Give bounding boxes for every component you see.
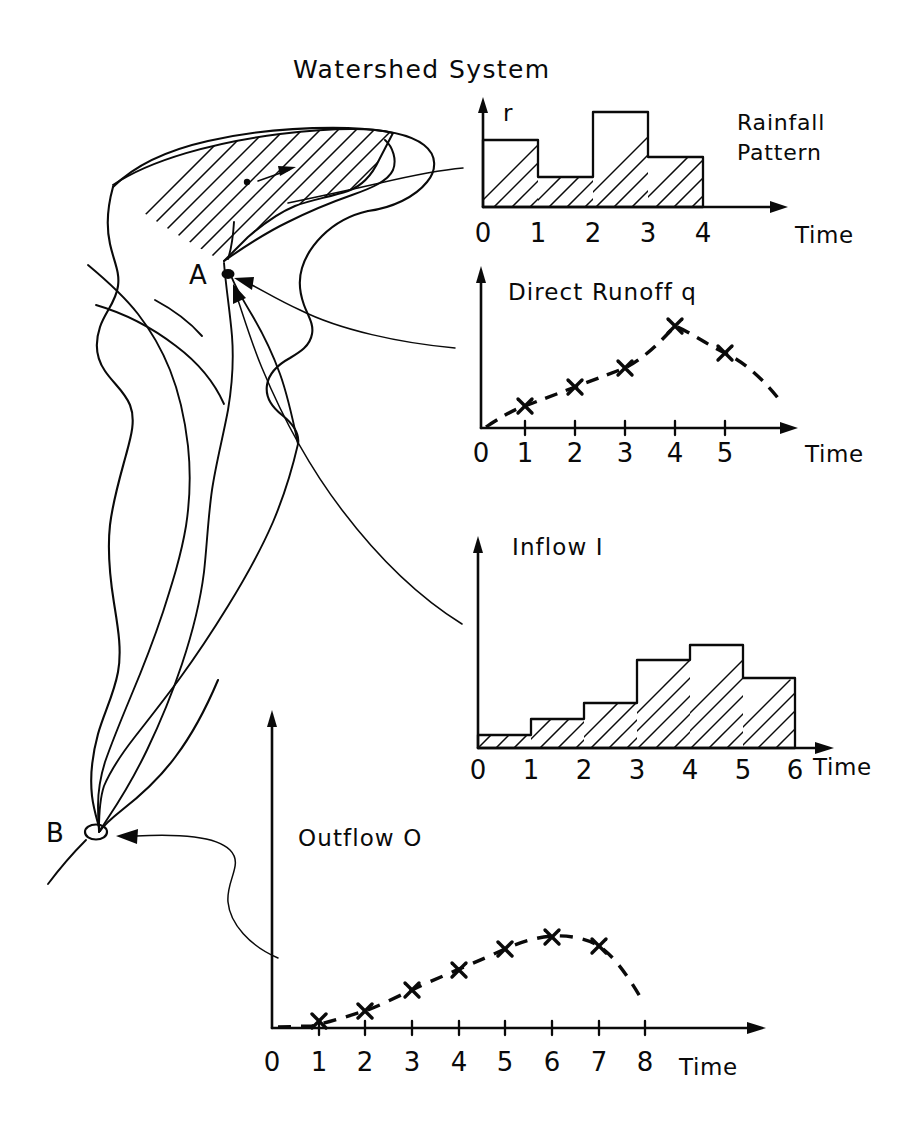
- point-a-label: A: [189, 260, 207, 290]
- watershed-map: A B: [46, 90, 468, 884]
- runoff-tick-0: 0: [473, 438, 490, 468]
- rainfall-tick-2: 2: [585, 218, 602, 248]
- inflow-bars-outline: [478, 645, 795, 748]
- outflow-tick-5: 5: [497, 1047, 514, 1077]
- arrowhead-outflow-to-b: [116, 829, 138, 844]
- runoff-data-markers: [518, 319, 732, 413]
- outflow-tick-8: 8: [637, 1047, 654, 1077]
- point-a-marker: [222, 269, 235, 279]
- stream-stub-mid: [155, 300, 202, 336]
- outflow-x-axis-arrow: [747, 1022, 766, 1034]
- rainfall-bar-3-hatch: [555, 110, 765, 230]
- inflow-tick-1: 1: [523, 755, 540, 785]
- rainfall-series-label-line1: Rainfall: [737, 110, 825, 135]
- outflow-tick-3: 3: [404, 1047, 421, 1077]
- inflow-bar-2-hatch: [510, 704, 620, 760]
- inflow-tick-2: 2: [576, 755, 593, 785]
- runoff-x-axis-label: Time: [804, 441, 864, 467]
- runoff-tick-4: 4: [667, 438, 684, 468]
- runoff-y-axis-arrow: [476, 266, 486, 283]
- stream-main: [99, 263, 233, 832]
- runoff-tick-1: 1: [517, 438, 534, 468]
- outflow-tick-7: 7: [591, 1047, 608, 1077]
- outflow-tick-2: 2: [357, 1047, 374, 1077]
- inflow-x-axis-label: Time: [812, 754, 872, 780]
- outflow-tick-6: 6: [544, 1047, 561, 1077]
- outflow-hydrograph-line: [278, 936, 642, 1027]
- figure-title: Watershed System: [293, 55, 551, 84]
- stream-stub-left: [96, 305, 224, 404]
- runoff-title: Direct Runoff q: [508, 279, 697, 305]
- rainfall-tick-1: 1: [530, 218, 547, 248]
- inflow-tick-4: 4: [682, 755, 699, 785]
- rainfall-x-axis-label: Time: [794, 222, 854, 248]
- outflow-y-axis-arrow: [267, 710, 277, 727]
- outflow-tick-1: 1: [311, 1047, 328, 1077]
- watershed-boundary-left-lower: [100, 680, 218, 831]
- outflow-x-axis-label: Time: [678, 1054, 738, 1080]
- watershed-boundary: [91, 187, 132, 831]
- subbasin-marker-dot: [244, 179, 250, 185]
- outflow-tick-0: 0: [264, 1047, 281, 1077]
- rainfall-series-label-line2: Pattern: [737, 140, 822, 165]
- chart-direct-runoff: Direct Runoff q Time 0 1 2 3 4 5: [473, 266, 864, 468]
- runoff-x-axis-arrow: [780, 422, 798, 434]
- connector-outflow-to-b: [136, 835, 278, 958]
- rainfall-tick-0: 0: [475, 218, 492, 248]
- outflow-title: Outflow O: [298, 825, 422, 851]
- runoff-tick-5: 5: [717, 438, 734, 468]
- inflow-x-axis-arrow: [815, 742, 834, 754]
- rainfall-y-axis-arrow: [478, 97, 488, 113]
- stream-west-tributary: [88, 265, 190, 832]
- subbasin-hatching: [60, 90, 468, 300]
- runoff-tick-2: 2: [567, 438, 584, 468]
- watershed-boundary-east: [267, 211, 368, 444]
- inflow-tick-5: 5: [735, 755, 752, 785]
- rainfall-tick-3: 3: [640, 218, 657, 248]
- point-b-marker: [85, 825, 107, 840]
- chart-rainfall: r Time 0 1 2 3 4 Rainfall Pattern: [463, 97, 854, 248]
- watershed-system-figure: Watershed System: [0, 0, 913, 1143]
- inflow-tick-6: 6: [787, 755, 804, 785]
- chart-inflow: Inflow I Time 0 1 2 3 4 5 6: [466, 534, 872, 785]
- connector-inflow-to-a: [238, 300, 462, 624]
- point-b-label: B: [46, 818, 64, 848]
- inflow-y-axis-arrow: [473, 536, 483, 553]
- rainfall-tick-4: 4: [695, 218, 712, 248]
- rainfall-y-axis-label: r: [503, 100, 513, 126]
- rainfall-x-axis-arrow: [770, 201, 788, 213]
- inflow-tick-3: 3: [629, 755, 646, 785]
- inflow-title: Inflow I: [512, 534, 604, 560]
- runoff-tick-3: 3: [617, 438, 634, 468]
- outflow-tick-4: 4: [451, 1047, 468, 1077]
- inflow-bar-1-hatch: [466, 720, 560, 760]
- inflow-tick-0: 0: [470, 755, 487, 785]
- connector-runoff-to-a: [250, 284, 455, 348]
- stream-east-lower: [99, 444, 298, 830]
- inflow-bar-5-hatch: [628, 655, 838, 775]
- inflow-bar-4-hatch: [580, 660, 780, 770]
